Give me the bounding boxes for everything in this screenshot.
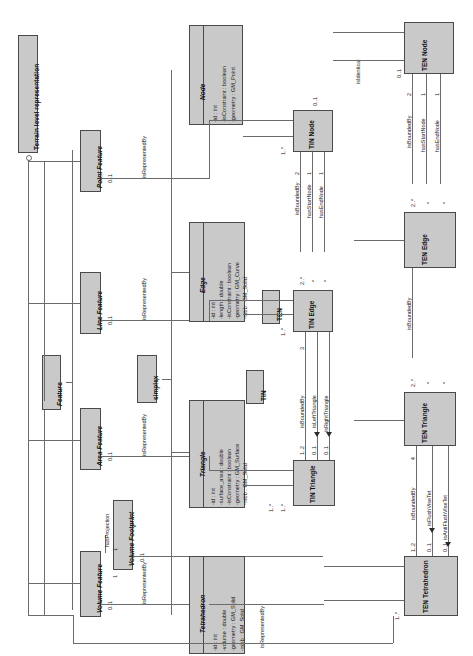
class-area-feature[interactable]: Area Feature	[80, 408, 101, 470]
multiplicity: 1..*	[268, 504, 274, 512]
class-edge[interactable]: Edge -id : int -length : double -isConst…	[189, 222, 245, 322]
connector	[209, 456, 210, 470]
class-attribute: -mbb : GM_Solid	[239, 609, 245, 651]
class-title: TIN Edge	[308, 301, 315, 330]
multiplicity: 2..*	[299, 277, 305, 285]
multiplicity: 1..*	[280, 147, 286, 155]
divider	[203, 26, 204, 124]
class-ten-tetrahedron[interactable]: TEN Tetrahedron	[404, 556, 458, 616]
generalization-spine	[72, 150, 73, 610]
class-line-feature[interactable]: Line Feature	[80, 272, 101, 334]
connector	[209, 300, 210, 320]
connector	[333, 60, 404, 61]
class-tin-edge[interactable]: TIN Edge	[293, 290, 333, 332]
class-ten-node[interactable]: TEN Node	[404, 22, 454, 74]
connector	[209, 604, 324, 605]
multiplicity: *	[323, 280, 329, 282]
connector	[44, 161, 45, 401]
multiplicity: *	[311, 280, 317, 282]
association-label-is-represented-by: isRepresentedBy	[259, 606, 265, 648]
connector	[416, 446, 417, 556]
multiplicity: 0..1	[139, 553, 145, 562]
multiplicity: *	[426, 382, 432, 384]
multiplicity: 1..*	[280, 504, 286, 512]
uml-diagram-canvas: Terrain level representation Feature Poi…	[0, 0, 473, 656]
connector	[243, 136, 293, 137]
divider	[203, 223, 204, 321]
connector	[73, 643, 393, 644]
connector	[209, 178, 210, 179]
class-ten-group[interactable]: TEN	[262, 290, 280, 324]
association-label-has-projection: hasProjection	[104, 514, 110, 547]
class-ten-triangle[interactable]: TEN Triangle	[404, 392, 456, 446]
class-tin-group[interactable]: TIN	[246, 370, 264, 404]
class-volume-feature[interactable]: Volume Feature	[80, 551, 101, 617]
class-title: Point Feature	[96, 146, 103, 188]
class-attribute: -isConstraint : boolean	[221, 66, 227, 122]
class-tetrahedron[interactable]: Tetrahedron -id : int -volume : double -…	[189, 556, 245, 654]
connector	[44, 410, 45, 615]
class-title: TIN	[260, 390, 267, 401]
class-attribute: -id : int	[210, 488, 216, 505]
navigable-arrow	[445, 542, 451, 547]
connector	[354, 240, 404, 241]
class-attribute: -volume : double	[221, 610, 227, 651]
class-volume-footprint[interactable]: Volume Footprint	[113, 500, 133, 570]
multiplicity: 1	[112, 548, 118, 551]
class-attribute: -isConstraint : boolean	[226, 449, 232, 505]
class-title: TEN Triangle	[421, 403, 428, 443]
multiplicity: *	[442, 202, 448, 204]
connector	[209, 470, 293, 471]
multiplicity: *	[442, 382, 448, 384]
connector	[171, 272, 189, 273]
class-title: Volume Feature	[96, 564, 103, 613]
connector	[243, 485, 293, 486]
connector	[209, 120, 293, 121]
class-attribute: -geometry : GM_Curve	[234, 262, 240, 319]
association-label-is-identical: isIdentical	[355, 60, 361, 84]
connector	[305, 332, 306, 460]
generalization-arrow-fill	[61, 378, 66, 384]
generalization-arrow	[245, 446, 250, 452]
class-title: TEN Edge	[421, 234, 428, 265]
class-point-feature[interactable]: Point Feature	[80, 130, 101, 192]
connector	[300, 152, 301, 252]
connector	[329, 332, 330, 460]
navigable-arrow	[429, 528, 435, 533]
class-title: Line Feature	[96, 291, 103, 330]
class-tin-node[interactable]: TIN Node	[293, 110, 333, 152]
class-title: Triangle	[199, 451, 206, 477]
class-simplex[interactable]: simplex	[137, 355, 157, 403]
class-terrain-level-representation[interactable]: Terrain level representation	[18, 35, 38, 153]
multiplicity: 0..1	[312, 97, 318, 106]
multiplicity: 0..1	[107, 601, 113, 610]
multiplicity: 2..*	[410, 379, 416, 387]
class-title: TIN Triangle	[309, 465, 316, 503]
class-attribute: -id : int	[210, 302, 216, 319]
connector	[101, 178, 209, 179]
association-label-is-represented-by: isRepresentedBy	[141, 414, 147, 456]
generalization-spine	[171, 70, 172, 615]
connector	[28, 615, 73, 616]
multiplicity: 1	[112, 575, 118, 578]
multiplicity: 1..*	[280, 328, 286, 336]
connector	[73, 615, 74, 643]
connector	[333, 32, 404, 33]
connector	[243, 314, 293, 315]
class-triangle[interactable]: Triangle -id : int -surface_area : doubl…	[189, 400, 245, 508]
connector	[171, 452, 189, 453]
class-tin-triangle[interactable]: TIN Triangle	[293, 460, 335, 506]
class-ten-edge[interactable]: TEN Edge	[404, 212, 456, 268]
class-node[interactable]: Node -id : int -isConstraint : boolean -…	[189, 25, 243, 125]
connector	[171, 604, 189, 605]
multiplicity: 1..*	[394, 612, 400, 620]
connector	[312, 152, 313, 252]
connector	[412, 74, 413, 184]
class-attribute: -surface_area : double	[218, 449, 224, 505]
connector	[209, 320, 210, 321]
class-title: Edge	[199, 277, 206, 293]
connector	[209, 120, 210, 178]
connector	[324, 566, 404, 567]
class-title: Terrain level representation	[33, 64, 40, 150]
connector	[426, 74, 427, 184]
